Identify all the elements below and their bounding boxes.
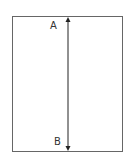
label-a: A bbox=[50, 21, 57, 31]
label-b: B bbox=[54, 137, 61, 147]
arrowhead-up-icon bbox=[66, 17, 71, 22]
arrowhead-down-icon bbox=[66, 146, 71, 151]
diagram-canvas bbox=[0, 0, 133, 162]
